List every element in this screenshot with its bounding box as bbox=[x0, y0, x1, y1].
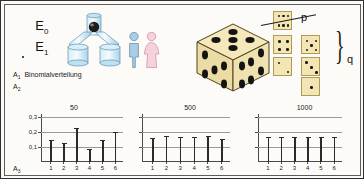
a1-caption: A1Binomialverteilung bbox=[13, 71, 82, 80]
die-pip bbox=[278, 15, 281, 18]
chart-title: 1000 bbox=[252, 104, 357, 111]
gridline bbox=[41, 147, 123, 148]
fraction-denominator: E1 bbox=[22, 39, 62, 60]
gridline bbox=[258, 147, 342, 148]
die-pip bbox=[315, 71, 318, 74]
y-tick bbox=[255, 147, 258, 148]
bar bbox=[334, 137, 336, 162]
x-tick-label: 5 bbox=[98, 165, 106, 171]
die-pip bbox=[310, 86, 313, 89]
bar-cap bbox=[292, 137, 297, 138]
bar bbox=[320, 137, 322, 162]
die-pip bbox=[286, 48, 289, 51]
figure-page: E0 E1 bbox=[0, 0, 364, 179]
die-pip bbox=[278, 48, 281, 51]
bar-cap bbox=[279, 137, 284, 138]
x-tick-label: 4 bbox=[304, 165, 312, 171]
x-tick-label: 2 bbox=[60, 165, 68, 171]
x-tick bbox=[102, 162, 103, 165]
y-tick bbox=[139, 132, 142, 133]
y-tick bbox=[255, 132, 258, 133]
x-tick bbox=[320, 162, 321, 165]
die-pip bbox=[287, 24, 290, 27]
urn-funnel-apparatus bbox=[65, 11, 123, 67]
bar-cap bbox=[62, 143, 67, 144]
bar bbox=[281, 137, 283, 162]
y-tick bbox=[255, 117, 258, 118]
y-tick-label: 0,1 bbox=[23, 144, 37, 150]
female-figure bbox=[144, 32, 159, 67]
gridline bbox=[258, 117, 342, 118]
p-label: p bbox=[301, 11, 307, 23]
bar bbox=[63, 143, 65, 163]
plot-area: 123456 bbox=[142, 114, 230, 162]
bar bbox=[180, 137, 182, 162]
bar-cap bbox=[150, 138, 155, 139]
bar bbox=[152, 138, 154, 162]
bar bbox=[115, 132, 117, 162]
right-cylinder bbox=[100, 44, 120, 66]
x-tick bbox=[194, 162, 195, 165]
plot-area: 0,10,20,3123456 bbox=[41, 114, 123, 162]
x-tick-label: 6 bbox=[111, 165, 119, 171]
bar-cap bbox=[87, 149, 92, 150]
gridline bbox=[142, 132, 230, 133]
x-tick-label: 3 bbox=[176, 165, 184, 171]
x-tick bbox=[89, 162, 90, 165]
y-tick bbox=[139, 117, 142, 118]
x-tick-label: 6 bbox=[218, 165, 226, 171]
people-pictograms bbox=[125, 31, 163, 69]
bar-cap bbox=[266, 137, 271, 138]
small-die-2 bbox=[273, 57, 292, 76]
y-tick bbox=[139, 147, 142, 148]
die-pip bbox=[305, 61, 308, 64]
die-pip bbox=[282, 15, 285, 18]
x-axis bbox=[41, 161, 123, 162]
y-tick bbox=[38, 147, 41, 148]
x-axis bbox=[258, 161, 342, 162]
x-tick-label: 4 bbox=[190, 165, 198, 171]
male-figure bbox=[130, 32, 139, 67]
x-tick bbox=[50, 162, 51, 165]
bar-cap bbox=[164, 136, 169, 137]
bar bbox=[294, 137, 296, 162]
bar-cap bbox=[113, 132, 118, 133]
ball bbox=[89, 22, 99, 32]
x-tick-label: 1 bbox=[264, 165, 272, 171]
x-tick bbox=[221, 162, 222, 165]
bar-cap bbox=[306, 137, 311, 138]
x-tick-label: 3 bbox=[73, 165, 81, 171]
a2-tag-wrap: A2 bbox=[13, 83, 20, 92]
y-tick bbox=[38, 117, 41, 118]
x-tick bbox=[268, 162, 269, 165]
small-die-3 bbox=[301, 57, 320, 76]
x-tick bbox=[115, 162, 116, 165]
chart-1000: 1000 123456 bbox=[252, 104, 357, 176]
fraction-bar bbox=[22, 56, 24, 58]
bar-cap bbox=[319, 137, 324, 138]
bar bbox=[89, 149, 91, 163]
x-tick-label: 4 bbox=[86, 165, 94, 171]
die-pip bbox=[310, 66, 313, 69]
bar-cap bbox=[178, 137, 183, 138]
bar-cap bbox=[100, 140, 105, 141]
gridline bbox=[142, 147, 230, 148]
gridline bbox=[41, 132, 123, 133]
bar-cap bbox=[220, 139, 225, 140]
chart-500: 500 123456 bbox=[136, 104, 244, 176]
x-tick-label: 1 bbox=[47, 165, 55, 171]
die-pip bbox=[306, 40, 309, 43]
bar-cap bbox=[206, 136, 211, 137]
x-axis bbox=[142, 161, 230, 162]
curly-brace-icon: } bbox=[335, 26, 345, 66]
x-tick bbox=[207, 162, 208, 165]
y-axis bbox=[258, 114, 259, 162]
gridline bbox=[41, 117, 123, 118]
large-die bbox=[194, 22, 272, 94]
small-die-4 bbox=[273, 35, 292, 54]
small-die-1 bbox=[301, 77, 320, 96]
y-axis bbox=[41, 114, 42, 162]
x-tick bbox=[152, 162, 153, 165]
x-tick-label: 1 bbox=[148, 165, 156, 171]
bar-cap bbox=[74, 128, 79, 129]
